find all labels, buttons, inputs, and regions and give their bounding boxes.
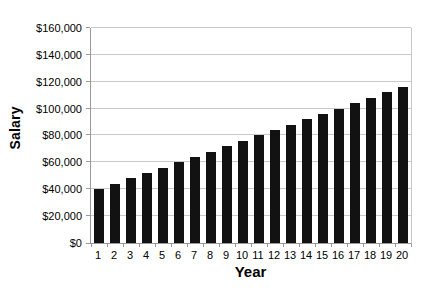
x-tick-label: 13 — [284, 249, 296, 261]
y-axis-tick — [86, 188, 90, 189]
y-tick-label: $160,000 — [36, 22, 82, 34]
x-tick-label: 15 — [316, 249, 328, 261]
bar-year-5 — [158, 168, 168, 243]
x-tick-label: 1 — [95, 249, 101, 261]
x-tick-label: 8 — [207, 249, 213, 261]
bar-year-6 — [174, 162, 184, 243]
y-axis-title-text: Salary — [7, 106, 23, 149]
x-axis-tick — [203, 244, 204, 247]
x-axis-tick — [171, 244, 172, 247]
x-axis-tick — [283, 244, 284, 247]
y-axis-tick — [86, 215, 90, 216]
x-axis-tick — [107, 244, 108, 247]
x-tick-label: 10 — [236, 249, 248, 261]
bar-year-14 — [302, 119, 312, 243]
x-axis-tick — [347, 244, 348, 247]
x-tick-label: 14 — [300, 249, 312, 261]
bar-year-18 — [366, 98, 376, 243]
gridline — [91, 188, 411, 189]
x-axis-tick — [219, 244, 220, 247]
bar-year-13 — [286, 125, 296, 243]
x-tick-label: 3 — [127, 249, 133, 261]
y-axis-title: Salary — [2, 20, 28, 235]
y-tick-label: $140,000 — [36, 49, 82, 61]
x-tick-label: 7 — [191, 249, 197, 261]
x-tick-label: 6 — [175, 249, 181, 261]
gridline — [91, 108, 411, 109]
bar-year-20 — [398, 87, 408, 243]
x-axis-tick — [235, 244, 236, 247]
x-axis-tick — [187, 244, 188, 247]
bar-year-12 — [270, 130, 280, 243]
y-axis-tick — [86, 108, 90, 109]
salary-bar-chart: Salary $0$20,000$40,000$60,000$80,000$10… — [0, 0, 434, 296]
x-tick-label: 5 — [159, 249, 165, 261]
y-tick-label: $20,000 — [42, 210, 82, 222]
y-axis-tick — [86, 27, 90, 28]
x-axis-tick — [155, 244, 156, 247]
bar-year-1 — [94, 189, 104, 243]
x-tick-label: 2 — [111, 249, 117, 261]
y-tick-label: $60,000 — [42, 156, 82, 168]
x-axis-title: Year — [90, 263, 411, 280]
bar-year-17 — [350, 103, 360, 243]
gridline — [91, 54, 411, 55]
bar-year-3 — [126, 178, 136, 243]
y-tick-label: $80,000 — [42, 129, 82, 141]
gridline — [91, 161, 411, 162]
x-tick-label: 17 — [348, 249, 360, 261]
bar-year-16 — [334, 109, 344, 243]
x-axis-tick — [379, 244, 380, 247]
x-axis-tick — [411, 244, 412, 247]
bar-year-11 — [254, 135, 264, 243]
y-axis-tick — [86, 243, 90, 244]
y-axis-tick — [86, 161, 90, 162]
x-axis-tick — [267, 244, 268, 247]
bar-year-9 — [222, 146, 232, 243]
bar-year-8 — [206, 152, 216, 243]
y-tick-label: $100,000 — [36, 103, 82, 115]
gridline — [91, 81, 411, 82]
x-axis-tick — [315, 244, 316, 247]
y-tick-label: $120,000 — [36, 76, 82, 88]
x-tick-label: 4 — [143, 249, 149, 261]
bar-year-4 — [142, 173, 152, 243]
y-axis-tick — [86, 81, 90, 82]
x-tick-label: 20 — [396, 249, 408, 261]
x-axis-tick — [395, 244, 396, 247]
plot-area — [90, 28, 412, 244]
x-axis-tick — [363, 244, 364, 247]
bar-year-2 — [110, 184, 120, 243]
y-axis-tick — [86, 54, 90, 55]
x-axis-tick — [251, 244, 252, 247]
gridline — [91, 215, 411, 216]
x-tick-label: 18 — [364, 249, 376, 261]
bar-year-7 — [190, 157, 200, 243]
x-tick-label: 19 — [380, 249, 392, 261]
y-axis-tick — [86, 134, 90, 135]
x-tick-label: 11 — [252, 249, 263, 261]
bar-year-19 — [382, 92, 392, 243]
bar-year-15 — [318, 114, 328, 243]
x-tick-label: 9 — [223, 249, 229, 261]
x-axis-tick — [91, 244, 92, 247]
x-axis-tick — [139, 244, 140, 247]
x-tick-label: 12 — [268, 249, 280, 261]
gridline — [91, 134, 411, 135]
gridline — [91, 27, 411, 28]
y-tick-label: $40,000 — [42, 183, 82, 195]
x-axis-tick — [299, 244, 300, 247]
bar-year-10 — [238, 141, 248, 243]
x-tick-label: 16 — [332, 249, 344, 261]
y-tick-label: $0 — [70, 237, 82, 249]
x-axis-tick — [123, 244, 124, 247]
x-axis-tick — [331, 244, 332, 247]
